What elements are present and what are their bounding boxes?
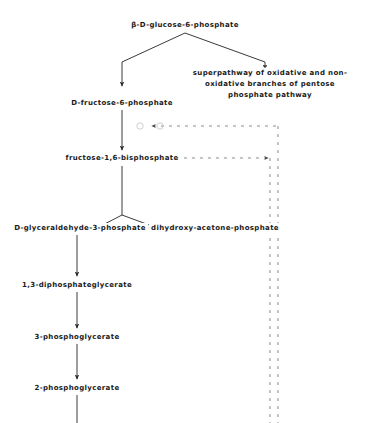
node-1-3-diphosphateglycerate[interactable]: 1,3-diphosphateglycerate — [20, 280, 134, 290]
node-d-glyceraldehyde-3-phosphate[interactable]: D-glyceraldehyde-3-phosphate — [12, 223, 148, 233]
node-d-fructose-6-phosphate[interactable]: D-fructose-6-phosphate — [69, 98, 175, 108]
reaction-node-1-icon — [137, 123, 143, 129]
node-fructose-1-6-bisphosphate[interactable]: fructose-1,6-bisphosphate — [63, 153, 180, 163]
reaction-node-markers — [137, 123, 163, 129]
pathway-connector-layer — [0, 0, 366, 423]
edge-g6p-to-ppp — [185, 33, 265, 69]
node-superpathway-pentose-phosphate[interactable]: superpathway of oxidative and non-oxidat… — [182, 68, 358, 101]
pathway-diagram-canvas: β-D-glucose-6-phosphate superpathway of … — [0, 0, 366, 423]
node-3-phosphoglycerate[interactable]: 3-phosphoglycerate — [33, 332, 122, 342]
node-beta-d-glucose-6-phosphate[interactable]: β-D-glucose-6-phosphate — [129, 20, 241, 30]
node-dihydroxy-acetone-phosphate[interactable]: dihydroxy-acetone-phosphate — [149, 223, 281, 233]
node-2-phosphoglycerate[interactable]: 2-phosphoglycerate — [33, 383, 122, 393]
edge-g6p-to-f6p — [122, 33, 185, 86]
